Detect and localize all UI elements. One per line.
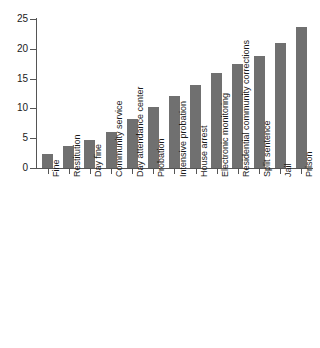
x-axis-category-label: House arrest (200, 125, 209, 177)
x-axis-tick (48, 169, 49, 174)
x-axis-tick (217, 169, 218, 174)
y-axis-tick-label: 20 (0, 44, 28, 54)
x-axis-tick (69, 169, 70, 174)
x-axis-category-label: Restitution (73, 134, 82, 177)
x-axis-tick (280, 169, 281, 174)
x-axis-category-label: Probation (157, 138, 166, 177)
x-axis-tick (90, 169, 91, 174)
bar (275, 43, 286, 168)
x-axis-category-label: Community service (115, 100, 124, 177)
y-axis-tick (30, 19, 36, 20)
x-axis-tick (111, 169, 112, 174)
x-axis-tick (259, 169, 260, 174)
x-axis-tick (196, 169, 197, 174)
bar (296, 27, 307, 168)
y-axis-tick (30, 79, 36, 80)
y-axis-tick-label: 25 (0, 14, 28, 24)
y-axis-tick (30, 49, 36, 50)
y-axis-tick-label: 15 (0, 74, 28, 84)
x-axis-tick (174, 169, 175, 174)
x-axis-tick (132, 169, 133, 174)
y-axis-tick (30, 138, 36, 139)
x-axis-category-label: Day fine (94, 144, 103, 177)
x-axis-category-label: Split sentence (263, 120, 272, 177)
x-axis-category-label: Day attendance center (136, 86, 145, 177)
bar-chart: 0510152025 FineRestitutionDay fineCommun… (0, 0, 320, 348)
y-axis-tick-label: 0 (0, 163, 28, 173)
x-axis-category-label: Prison (305, 151, 314, 177)
x-axis-tick (301, 169, 302, 174)
y-axis-tick-label: 10 (0, 103, 28, 113)
x-axis-category-label: Intensive probation (179, 101, 188, 177)
y-axis-tick-label: 5 (0, 133, 28, 143)
x-axis-category-label: Fine (52, 159, 61, 177)
x-axis-category-label: Residential community corrections (242, 40, 251, 177)
x-axis-category-label: Jail (284, 163, 293, 177)
x-axis-category-label: Electronic monitoring (221, 93, 230, 177)
y-axis-tick (30, 168, 36, 169)
x-axis-tick (238, 169, 239, 174)
x-axis-tick (153, 169, 154, 174)
y-axis-tick (30, 108, 36, 109)
